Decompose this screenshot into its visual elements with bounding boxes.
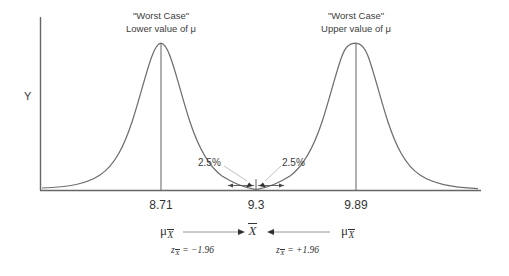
left-z-subscript-xbar: X xyxy=(175,249,180,257)
x-tick-label-left: 8.71 xyxy=(136,199,186,212)
left-mu-xbar-symbol: μX xyxy=(160,224,174,240)
right-curve-subtitle: Upper value of μ xyxy=(296,24,416,35)
left-tail-arrow-head-inner xyxy=(246,183,253,188)
left-z-label: zX = −1.96 xyxy=(171,245,214,257)
left-curve-title: "Worst Case" xyxy=(111,11,211,22)
figure-container: Y "Worst Case" Lower value of μ "Worst C… xyxy=(0,0,509,276)
center-xbar-glyph: X xyxy=(248,224,257,239)
right-tail-arrow-head-outer xyxy=(279,184,284,188)
right-mu-glyph: μ xyxy=(341,223,348,238)
right-tail-percent-label: 2.5% xyxy=(282,157,305,168)
right-z-label: zX = +1.96 xyxy=(276,245,319,257)
left-curve-subtitle: Lower value of μ xyxy=(101,24,221,35)
left-mu-subscript-xbar: X xyxy=(167,230,174,240)
left-tail-percent-label: 2.5% xyxy=(198,157,221,168)
x-tick-label-right: 9.89 xyxy=(331,199,381,212)
left-mu-glyph: μ xyxy=(160,223,167,238)
right-mu-subscript-xbar: X xyxy=(348,230,355,240)
right-curve-title: "Worst Case" xyxy=(306,11,406,22)
right-z-subscript-xbar: X xyxy=(280,249,285,257)
left-z-value: = −1.96 xyxy=(182,245,214,255)
center-xbar-symbol: X xyxy=(248,224,257,239)
left-normal-curve xyxy=(42,43,256,189)
right-pct-leader-line xyxy=(265,166,281,181)
left-tail-arrow-head-outer xyxy=(228,184,233,188)
right-mu-xbar-symbol: μX xyxy=(341,224,355,240)
right-z-arrow-head xyxy=(267,229,274,235)
x-tick-label-center: 9.3 xyxy=(234,199,278,212)
right-tail-arrow-head-inner xyxy=(259,183,266,188)
right-z-value: = +1.96 xyxy=(287,245,319,255)
left-z-arrow-head xyxy=(238,229,245,235)
y-axis-label: Y xyxy=(24,90,31,102)
